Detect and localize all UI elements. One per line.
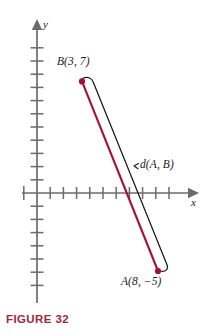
point-a-marker	[155, 268, 161, 274]
point-a-label: A(8, −5)	[121, 275, 162, 287]
point-b-marker	[79, 78, 85, 84]
figure-container: B(3, 7) A(8, −5) d(A, B) y x FIGURE 32	[0, 0, 212, 336]
distance-brace	[83, 77, 168, 271]
y-axis-arrowhead	[32, 19, 42, 30]
x-axis-label: x	[191, 196, 196, 208]
distance-label-leader	[134, 164, 139, 169]
y-axis-label: y	[43, 18, 48, 30]
point-b-label: B(3, 7)	[57, 55, 90, 67]
coordinate-plane	[0, 0, 212, 336]
distance-label: d(A, B)	[140, 158, 174, 170]
figure-caption: FIGURE 32	[6, 313, 69, 325]
segment-ab	[82, 81, 158, 271]
